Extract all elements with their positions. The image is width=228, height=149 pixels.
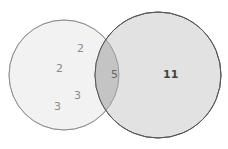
left-value-3: 3 — [74, 89, 81, 102]
left-value-2: 2 — [56, 62, 63, 75]
venn-diagram: 2 2 3 3 5 11 — [0, 0, 228, 149]
left-value-4: 3 — [54, 100, 61, 113]
right-value: 11 — [163, 68, 178, 81]
left-value-1: 2 — [77, 42, 84, 55]
intersection-value: 5 — [111, 68, 118, 81]
